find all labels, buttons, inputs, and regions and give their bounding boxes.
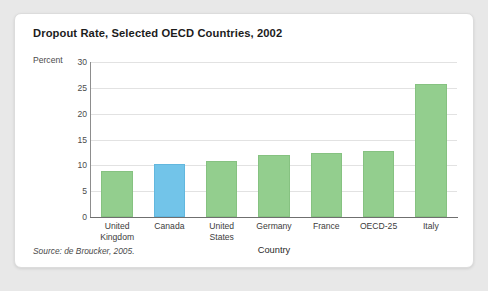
y-tick-label: 10 [77,160,87,170]
bar-slot [143,62,195,217]
x-tick-label-line: Kingdom [91,232,143,243]
x-tick-label-line: Canada [143,221,195,232]
bar-slot [405,62,457,217]
bar-united-kingdom[interactable] [101,171,132,218]
x-axis-line [90,217,458,218]
x-tick-label: Italy [405,221,457,242]
bar-slot [300,62,352,217]
y-axis-tick-labels: 051015202530 [61,62,87,217]
x-tick-label: UnitedStates [196,221,248,242]
bar-slot [352,62,404,217]
y-tick-label: 0 [82,212,87,222]
bar-series [91,62,457,217]
x-tick-label-line: United [196,221,248,232]
bar-slot [248,62,300,217]
x-tick-label-line: Germany [248,221,300,232]
bar-slot [91,62,143,217]
x-tick-label: Canada [143,221,195,242]
bar-oecd-25[interactable] [363,151,394,217]
y-tick-label: 20 [77,109,87,119]
bar-canada[interactable] [154,164,185,217]
source-note: Source: de Broucker, 2005. [33,246,135,256]
x-tick-label: France [300,221,352,242]
plot-area [91,62,457,217]
x-tick-label-line: France [300,221,352,232]
bar-germany[interactable] [258,155,289,217]
y-tick-label: 5 [82,186,87,196]
y-tick-label: 30 [77,57,87,67]
y-axis-label: Percent [33,55,63,65]
x-tick-label-line: States [196,232,248,243]
x-tick-label: UnitedKingdom [91,221,143,242]
x-tick-label: Germany [248,221,300,242]
x-axis-tick-labels: UnitedKingdomCanadaUnitedStatesGermanyFr… [91,221,457,242]
y-tick-label: 15 [77,135,87,145]
figure-card: Dropout Rate, Selected OECD Countries, 2… [14,13,474,268]
x-tick-label: OECD-25 [352,221,404,242]
y-tick-label: 25 [77,83,87,93]
bar-italy[interactable] [415,84,446,217]
bar-slot [196,62,248,217]
x-tick-label-line: Italy [405,221,457,232]
page-title: Dropout Rate, Selected OECD Countries, 2… [33,27,282,39]
x-axis-label: Country [91,245,457,255]
x-tick-label-line: OECD-25 [352,221,404,232]
bar-united-states[interactable] [206,161,237,217]
bar-france[interactable] [311,153,342,217]
x-tick-label-line: United [91,221,143,232]
